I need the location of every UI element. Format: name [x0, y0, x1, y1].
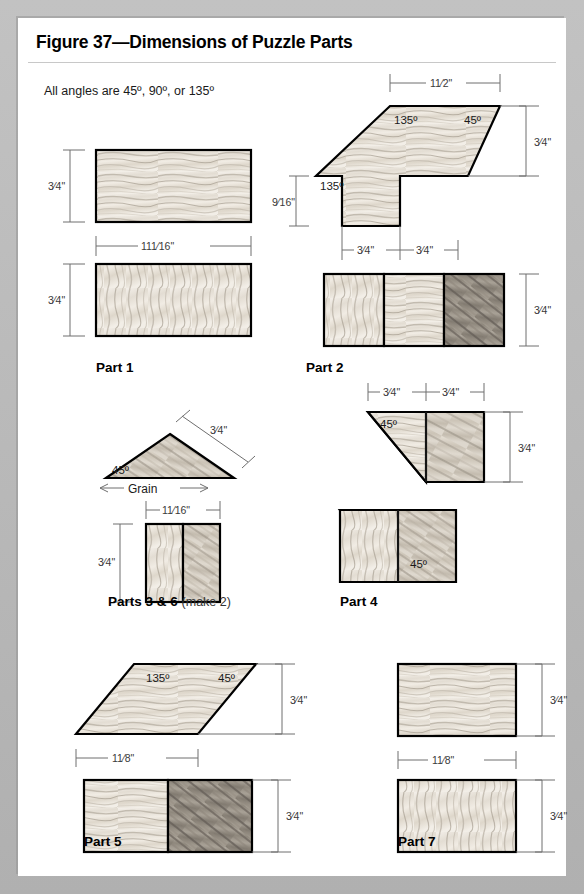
part2-angle-45: 45º [464, 114, 482, 126]
part36-edge-face [146, 524, 220, 602]
part2-bottom-right-label: 3⁄4" [416, 244, 433, 256]
part4-top-bevel-face [368, 412, 426, 482]
figure-subtitle: All angles are 45º, 90º, or 135º [44, 84, 214, 98]
part4-edge-face-left [340, 510, 398, 582]
part1-top-height-label: 3⁄4" [48, 180, 65, 192]
part5-base-label: 11⁄8" [112, 752, 135, 764]
part5-angle-45: 45º [218, 672, 236, 684]
part2-left-height-label: 9⁄16" [272, 196, 295, 208]
part1-edge-height-dimension [63, 264, 85, 336]
grain-label: Grain [128, 482, 157, 496]
part1-edge-face [96, 264, 251, 336]
part1-edge-height-label: 3⁄4" [48, 294, 65, 306]
part4-angle-45-top: 45º [380, 418, 398, 430]
part7-label-text: Part 7 [398, 834, 436, 849]
part7-height-label: 3⁄4" [550, 694, 567, 706]
figure-title: Figure 37—Dimensions of Puzzle Parts [36, 32, 353, 53]
part7-drawing: 3⁄4" 11⁄8" 3⁄4" [370, 632, 584, 862]
part36-hypotenuse-label: 3⁄4" [210, 424, 227, 436]
part1-label: Part 1 [96, 360, 134, 375]
part7-width-dimension [398, 751, 516, 769]
part4-top-right-label: 3⁄4" [442, 386, 459, 398]
part36-height-label: 3⁄4" [98, 556, 115, 568]
part2-edge-height-label: 3⁄4" [534, 304, 551, 316]
part1-top-face [96, 150, 251, 222]
part7-top-face [398, 664, 516, 736]
part36-height-dimension [113, 524, 133, 602]
part1-drawing: 3⁄4" 111⁄16" 3⁄4" [38, 128, 298, 378]
part4-label-text: Part 4 [340, 594, 378, 609]
part4-drawing: 3⁄4" 3⁄4" 45º 3⁄4" [318, 370, 568, 600]
part5-base-dimension [76, 749, 198, 767]
part5-label-text: Part 5 [84, 834, 122, 849]
part36-label-text: Parts 3 & 6 [108, 594, 178, 609]
part5-edge-height-label: 3⁄4" [286, 810, 303, 822]
part4-angle-45-edge: 45º [410, 558, 428, 570]
part36-label: Parts 3 & 6 (make 2) [108, 594, 231, 609]
part4-top-left-label: 3⁄4" [383, 386, 400, 398]
part2-edge-face [324, 274, 504, 346]
part2-right-height-label: 3⁄4" [534, 136, 551, 148]
part4-height-label: 3⁄4" [518, 442, 535, 454]
part2-angle-135-top: 135º [394, 114, 418, 126]
part7-label: Part 7 [398, 834, 436, 849]
part36-width-label: 11⁄16" [162, 504, 190, 516]
part36-drawing: 45º 3⁄4" Grain [58, 388, 318, 608]
part1-label-text: Part 1 [96, 360, 134, 375]
part4-label: Part 4 [340, 594, 378, 609]
part2-drawing: 11⁄2" 135º 45º 135º 3⁄4" [286, 58, 558, 378]
page-frame: Figure 37—Dimensions of Puzzle Parts All… [0, 0, 584, 894]
part36-angle-45: 45º [112, 464, 130, 476]
part36-note-text: (make 2) [182, 595, 231, 609]
part1-width-label: 111⁄16" [141, 240, 174, 252]
part2-bottom-left-label: 3⁄4" [357, 244, 374, 256]
part7-width-label: 11⁄8" [432, 754, 455, 766]
figure-card: Figure 37—Dimensions of Puzzle Parts All… [18, 18, 566, 876]
part5-height-label: 3⁄4" [290, 694, 307, 706]
part5-drawing: 135º 45º 3⁄4" 11⁄8" [58, 632, 318, 862]
part1-top-height-dimension [63, 150, 85, 222]
part2-top-width-label: 11⁄2" [430, 77, 453, 89]
part2-angle-135-left: 135º [320, 180, 344, 192]
part5-label: Part 5 [84, 834, 122, 849]
part5-angle-135: 135º [146, 672, 170, 684]
part7-edge-height-label: 3⁄4" [550, 810, 567, 822]
